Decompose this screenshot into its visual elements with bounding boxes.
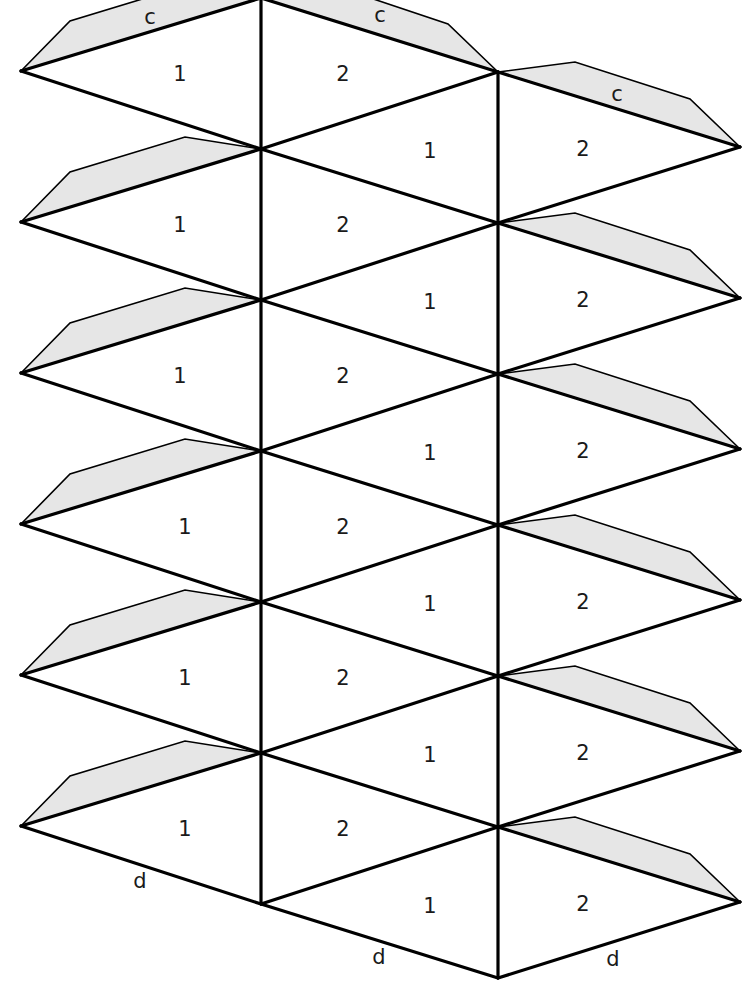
edge-middle-down (261, 753, 498, 827)
glue-tab-left (21, 741, 261, 826)
face-label-middle-lower: 1 (423, 139, 436, 163)
edge-label-d-right: d (606, 947, 619, 971)
face-label-right: 2 (576, 741, 589, 765)
face-label-left: 1 (178, 817, 191, 841)
glue-tab-left (21, 590, 261, 675)
glue-tab-left (21, 288, 261, 373)
edge-right-lower (498, 298, 740, 374)
edge-right-lower (498, 449, 740, 525)
edge-left-lower (21, 373, 261, 451)
face-label-right: 2 (576, 288, 589, 312)
face-label-middle-upper: 2 (336, 515, 349, 539)
edge-left-lower (21, 524, 261, 602)
edge-right-lower (498, 147, 740, 223)
edge-label-d-middle: d (372, 945, 385, 969)
edge-middle-down (261, 149, 498, 223)
edge-middle-down (261, 300, 498, 374)
edge-label-c-left: c (144, 5, 156, 29)
face-label-middle-lower: 1 (423, 592, 436, 616)
face-label-left: 1 (173, 213, 186, 237)
edge-right-lower (498, 751, 740, 827)
face-label-right: 2 (576, 892, 589, 916)
face-label-middle-lower: 1 (423, 894, 436, 918)
face-label-middle-upper: 2 (336, 817, 349, 841)
edge-middle-up (261, 676, 498, 753)
face-label-right: 2 (576, 439, 589, 463)
edge-right-lower (498, 600, 740, 676)
glue-tabs (21, 0, 740, 902)
edge-left-lower (21, 222, 261, 300)
edge-middle-up (261, 525, 498, 602)
face-label-middle-upper: 2 (336, 62, 349, 86)
edge-middle-up (261, 827, 498, 904)
face-label-right: 2 (576, 590, 589, 614)
edge-middle-down (261, 602, 498, 676)
face-label-middle-lower: 1 (423, 743, 436, 767)
edge-middle-up (261, 72, 498, 149)
face-label-left: 1 (178, 666, 191, 690)
glue-tab-left (21, 439, 261, 524)
face-label-middle-lower: 1 (423, 290, 436, 314)
glue-tab-left (21, 137, 261, 222)
edge-middle-up (261, 223, 498, 300)
edge-label-c-right: c (611, 82, 623, 106)
edge-left-lower (21, 71, 261, 149)
face-label-left: 1 (173, 62, 186, 86)
edge-middle-down (261, 451, 498, 525)
edge-label-c-middle: c (374, 3, 386, 27)
face-label-middle-upper: 2 (336, 213, 349, 237)
face-label-middle-lower: 1 (423, 441, 436, 465)
face-label-left: 1 (173, 364, 186, 388)
edge-left-lower (21, 675, 261, 753)
face-label-right: 2 (576, 137, 589, 161)
polyhedron-net-diagram: 121212121212121212121212 cccddd (0, 0, 751, 1005)
face-label-left: 1 (178, 515, 191, 539)
face-label-middle-upper: 2 (336, 364, 349, 388)
face-label-middle-upper: 2 (336, 666, 349, 690)
edge-middle-up (261, 374, 498, 451)
edge-label-d-left: d (133, 869, 146, 893)
